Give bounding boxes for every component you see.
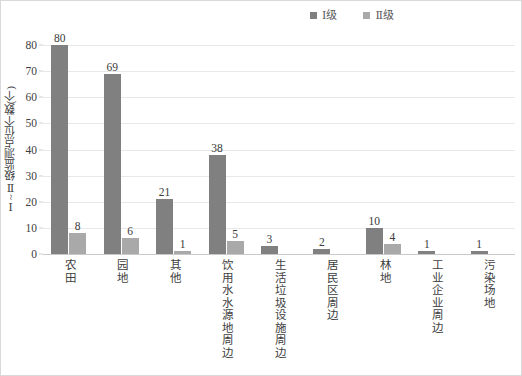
bar-value-label: 1 [180, 238, 186, 250]
legend-swatch-series-1 [310, 12, 317, 19]
bar-group: 696 [95, 45, 147, 254]
y-axis-tick-label: 0 [31, 248, 37, 260]
bar-value-label: 1 [476, 238, 482, 250]
x-axis-label-text: 饮用水水源地周边 [221, 259, 233, 359]
bar-value-label: 8 [75, 220, 81, 232]
y-axis-tick-label: 40 [26, 144, 38, 156]
x-axis-label: 其他 [148, 259, 200, 375]
x-axis-label: 生活垃圾设施周边 [253, 259, 305, 375]
x-axis-label-text: 其他 [168, 259, 180, 284]
bar[interactable]: 5 [227, 241, 244, 254]
y-axis-tick-label: 70 [26, 65, 38, 77]
x-axis-label-text: 居民区周边 [326, 259, 338, 322]
x-axis-label-text: 污染场地 [483, 259, 495, 309]
legend-item-series-2[interactable]: Ⅱ级 [363, 10, 393, 21]
bar-value-label: 69 [106, 61, 118, 73]
bar[interactable]: 21 [156, 199, 173, 254]
x-axis-label: 饮用水水源地周边 [200, 259, 252, 375]
bar[interactable]: 1 [471, 251, 488, 254]
bar-value-label: 5 [232, 228, 238, 240]
bar[interactable]: 1 [174, 251, 191, 254]
plot-area: 80706050403020100 8086962113853210411 [43, 45, 515, 254]
bar-value-label: 21 [159, 186, 171, 198]
gridline [43, 254, 515, 255]
y-axis-tick-label: 20 [26, 196, 38, 208]
x-axis-label: 农田 [43, 259, 95, 375]
bar[interactable]: 80 [51, 45, 68, 254]
bar-group: 2 [305, 45, 357, 254]
bar-value-label: 6 [127, 225, 133, 237]
bar-group: 1 [410, 45, 462, 254]
bar[interactable]: 1 [418, 251, 435, 254]
y-axis-title: Ⅰ~Ⅱ级监测点位个数(个) [3, 45, 17, 255]
x-axis-label: 林地 [358, 259, 410, 375]
bar-value-label: 1 [424, 238, 430, 250]
x-axis-label-text: 园地 [116, 259, 128, 284]
bar[interactable]: 3 [261, 246, 278, 254]
y-axis-tick-label: 10 [26, 222, 38, 234]
chart-container: Ⅰ级 Ⅱ级 Ⅰ~Ⅱ级监测点位个数(个) 80706050403020100 80… [0, 0, 522, 376]
y-axis-tick-label: 30 [26, 170, 38, 182]
bar-group: 211 [148, 45, 200, 254]
legend-swatch-series-2 [363, 12, 370, 19]
x-axis-label: 园地 [95, 259, 147, 375]
y-axis-title-text: Ⅰ~Ⅱ级监测点位个数(个) [2, 86, 18, 213]
y-axis-tick-label: 50 [26, 117, 38, 129]
y-axis-tick-label: 80 [26, 39, 38, 51]
x-axis-label: 居民区周边 [305, 259, 357, 375]
bar-value-label: 4 [389, 231, 395, 243]
legend-label-series-2: Ⅱ级 [375, 10, 393, 21]
bar[interactable]: 8 [69, 233, 86, 254]
bar[interactable]: 2 [313, 249, 330, 254]
bar-value-label: 2 [319, 236, 325, 248]
bar[interactable]: 38 [209, 155, 226, 254]
legend-item-series-1[interactable]: Ⅰ级 [310, 10, 337, 21]
bar-group: 3 [253, 45, 305, 254]
bar[interactable]: 6 [122, 238, 139, 254]
x-axis-label-text: 林地 [378, 259, 390, 284]
chart-legend: Ⅰ级 Ⅱ级 [1, 10, 522, 21]
x-axis-label-text: 工业企业周边 [431, 259, 443, 334]
bar-group: 385 [200, 45, 252, 254]
bar-value-label: 80 [54, 32, 66, 44]
bar[interactable]: 4 [384, 244, 401, 254]
x-axis-label: 工业企业周边 [410, 259, 462, 375]
bar-value-label: 38 [211, 142, 223, 154]
bar-group: 104 [358, 45, 410, 254]
x-axis-label-text: 农田 [63, 259, 75, 284]
legend-label-series-1: Ⅰ级 [322, 10, 337, 21]
bar[interactable]: 69 [104, 74, 121, 254]
bar-group: 808 [43, 45, 95, 254]
y-axis-tick-label: 60 [26, 91, 38, 103]
x-axis-label-text: 生活垃圾设施周边 [273, 259, 285, 359]
bar-value-label: 10 [369, 215, 381, 227]
bars-layer: 8086962113853210411 [43, 45, 515, 254]
x-axis-labels: 农田园地其他饮用水水源地周边生活垃圾设施周边居民区周边林地工业企业周边污染场地 [43, 259, 515, 375]
bar[interactable]: 10 [366, 228, 383, 254]
bar-group: 1 [463, 45, 515, 254]
bar-value-label: 3 [267, 233, 273, 245]
x-axis-label: 污染场地 [463, 259, 515, 375]
